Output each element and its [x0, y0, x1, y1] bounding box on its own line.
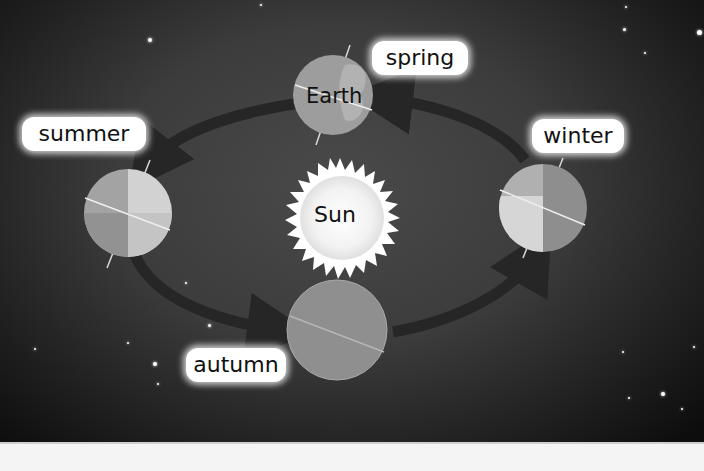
- star: [661, 392, 665, 396]
- season-label-winter: winter: [532, 119, 624, 153]
- star: [127, 342, 129, 344]
- season-label-summer: summer: [22, 117, 146, 151]
- orbit-arrow-spring-to-summer: [148, 103, 300, 165]
- earth-winter: [499, 158, 587, 258]
- star: [34, 348, 36, 350]
- star: [681, 408, 683, 410]
- orbit-arrow-summer-to-autumn: [133, 250, 280, 330]
- sun-label: Sun: [314, 202, 356, 227]
- star: [622, 351, 624, 353]
- earth-summer: [84, 160, 172, 268]
- star: [697, 30, 702, 35]
- season-label-autumn: autumn: [186, 348, 286, 382]
- star: [628, 397, 630, 399]
- star: [148, 38, 152, 42]
- orbit-arrow-autumn-to-winter: [393, 255, 535, 332]
- star: [153, 362, 157, 366]
- star: [185, 282, 187, 284]
- space-background: spring summer winter autumn Earth Sun: [0, 0, 704, 442]
- star: [623, 28, 626, 31]
- earth-label: Earth: [306, 84, 362, 108]
- bottom-margin: [0, 442, 704, 471]
- star: [625, 6, 627, 8]
- star: [260, 4, 262, 6]
- orbit-arrow-winter-to-spring: [380, 98, 525, 160]
- star: [644, 52, 646, 54]
- season-label-spring: spring: [372, 41, 468, 75]
- earth-autumn: [287, 280, 387, 380]
- star: [157, 383, 159, 385]
- star: [693, 346, 695, 348]
- star: [208, 324, 211, 327]
